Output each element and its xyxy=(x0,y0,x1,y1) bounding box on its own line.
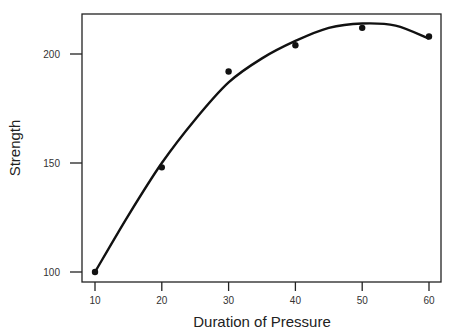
data-point xyxy=(292,42,298,48)
x-axis: 102030405060 xyxy=(89,282,435,306)
x-tick-label: 60 xyxy=(423,295,435,306)
data-point xyxy=(92,269,98,275)
x-tick-label: 40 xyxy=(290,295,302,306)
x-tick-label: 30 xyxy=(223,295,235,306)
x-axis-title: Duration of Pressure xyxy=(193,313,331,330)
data-point xyxy=(359,25,365,31)
plot-frame xyxy=(82,14,441,282)
x-tick-label: 20 xyxy=(156,295,168,306)
x-tick-label: 10 xyxy=(89,295,101,306)
y-tick-label: 150 xyxy=(43,158,60,169)
chart: 100150200 102030405060 Duration of Press… xyxy=(0,0,453,336)
y-axis: 100150200 xyxy=(43,49,82,278)
data-point xyxy=(426,33,432,39)
data-point xyxy=(159,164,165,170)
y-tick-label: 100 xyxy=(43,267,60,278)
y-tick-label: 200 xyxy=(43,49,60,60)
data-point xyxy=(225,68,231,74)
fitted-curve-line xyxy=(95,23,429,272)
x-tick-label: 50 xyxy=(357,295,369,306)
series-layer xyxy=(92,23,432,275)
y-axis-title: Strength xyxy=(6,120,23,177)
